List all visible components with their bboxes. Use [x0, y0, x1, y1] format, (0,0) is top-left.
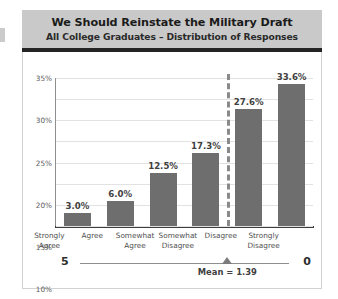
bar-value-label: 17.3%: [191, 141, 221, 151]
plot-area: 0%5%10%15%20%25%30%35% 3.0%6.0%12.5%17.3…: [56, 78, 313, 226]
gridline: 30%: [56, 99, 313, 100]
bar-value-label: 3.0%: [65, 201, 89, 211]
scale-left-value: 5: [61, 255, 69, 268]
bar-value-label: 6.0%: [108, 189, 132, 199]
gridline: 10%: [56, 184, 313, 185]
gridline: 15%: [56, 163, 313, 164]
chart-title: We Should Reinstate the Military Draft: [51, 16, 292, 30]
scale-line: [80, 263, 289, 264]
bar: [107, 201, 134, 226]
bar: [150, 173, 177, 226]
response-scale: 5 0 Mean = 1.39: [56, 258, 313, 270]
page-edge-artifact: [0, 28, 5, 42]
bar: [278, 84, 305, 226]
mean-dashed-line: [227, 74, 230, 226]
category-label-line: Disagree: [150, 241, 206, 251]
gridline: 5%: [56, 205, 313, 206]
y-axis-tick-label: 25%: [36, 158, 52, 167]
mean-marker-triangle-icon: [222, 257, 232, 264]
gridline: 35%: [56, 78, 313, 79]
bar: [64, 213, 91, 226]
y-axis-tick-label: 30%: [36, 116, 52, 125]
y-axis-tick-label: 10%: [36, 285, 52, 294]
bar-value-label: 12.5%: [148, 161, 178, 171]
header-divider-rule: [22, 48, 322, 52]
bar-value-label: 27.6%: [234, 97, 264, 107]
bar: [192, 153, 219, 226]
gridline: 0%: [56, 226, 313, 227]
bar: [235, 109, 262, 226]
category-label: StronglyDisagree: [236, 231, 292, 250]
category-label-line: Strongly: [236, 231, 292, 241]
gridline: 20%: [56, 141, 313, 142]
y-axis-tick-label: 35%: [36, 74, 52, 83]
bar-value-label: 33.6%: [277, 72, 307, 82]
mean-label: Mean = 1.39: [198, 267, 257, 277]
y-axis-tick-label: 20%: [36, 200, 52, 209]
category-label-line: Agree: [21, 241, 77, 251]
chart-header-band: We Should Reinstate the Military Draft A…: [22, 10, 322, 48]
gridline: 25%: [56, 120, 313, 121]
chart-subtitle: All College Graduates – Distribution of …: [46, 31, 298, 43]
category-label-line: Disagree: [236, 241, 292, 251]
scale-right-value: 0: [303, 255, 311, 268]
